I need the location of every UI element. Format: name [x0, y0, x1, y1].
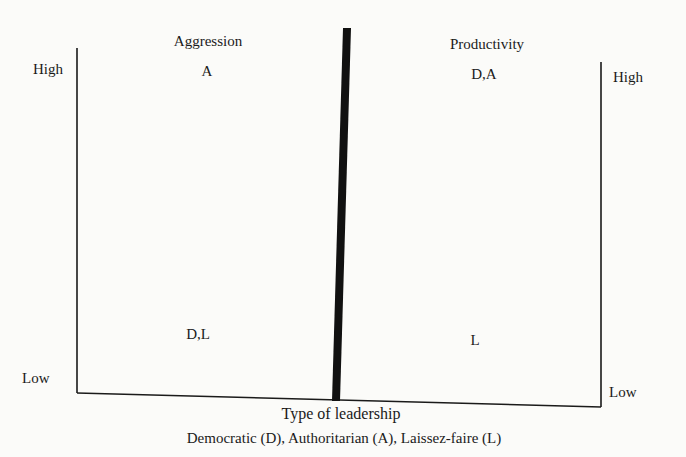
left-low-value: D,L: [186, 327, 210, 342]
right-panel-title: Productivity: [450, 37, 524, 52]
left-high-label: High: [33, 62, 63, 77]
left-panel-title: Aggression: [174, 34, 242, 49]
x-axis-label: Type of leadership: [282, 406, 401, 422]
left-low-label: Low: [22, 371, 50, 386]
left-high-value: A: [202, 64, 213, 79]
right-low-value: L: [470, 333, 479, 348]
center-divider-bar: [332, 28, 351, 401]
right-high-value: D,A: [471, 67, 496, 82]
x-axis-legend: Democratic (D), Authoritarian (A), Laiss…: [187, 431, 501, 446]
right-high-label: High: [613, 70, 643, 85]
diagram-lines: [0, 0, 686, 457]
right-low-label: Low: [609, 385, 637, 400]
